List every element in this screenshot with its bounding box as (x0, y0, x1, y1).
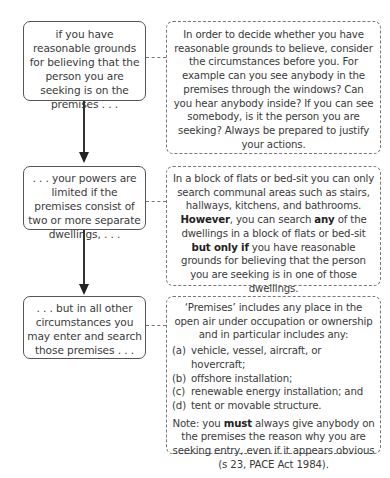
connector-dash-1 (146, 57, 166, 58)
list-item: (b)offshore installation; (172, 372, 375, 386)
explanation-text-2b: , you can search (230, 214, 315, 225)
condition-box-3: . . . but in all other circumstances you… (23, 296, 146, 359)
list-label: (b) (172, 372, 191, 386)
connector-dash-2 (146, 201, 166, 202)
arrow-down-icon (79, 152, 89, 163)
emphasis-however: However (180, 214, 229, 225)
arrow-down-icon (79, 284, 89, 295)
premises-list: (a)vehicle, vessel, aircraft, or hovercr… (172, 344, 375, 413)
explanation-text-2a: In a block of flats or bed-sit you can o… (173, 173, 374, 211)
list-text: vehicle, vessel, aircraft, or hovercraft… (191, 344, 375, 371)
condition-text-3: . . . but in all other circumstances you… (27, 302, 142, 356)
list-label: (d) (172, 399, 191, 413)
note-prefix: Note: you (172, 418, 223, 429)
premises-definition: ‘Premises’ includes any place in the ope… (172, 301, 375, 342)
list-label: (a) (172, 344, 191, 371)
emphasis-must: must (224, 418, 252, 429)
list-item: (d)tent or movable structure. (172, 399, 375, 413)
emphasis-any: any (314, 214, 334, 225)
condition-text-1: if you have reasonable grounds for belie… (30, 28, 140, 110)
explanation-box-3: ‘Premises’ includes any place in the ope… (166, 296, 381, 454)
explanation-box-2: In a block of flats or bed-sit you can o… (166, 166, 381, 286)
list-label: (c) (172, 385, 191, 399)
emphasis-but-only-if: but only if (192, 242, 249, 253)
condition-box-1: if you have reasonable grounds for belie… (23, 21, 146, 101)
list-text: offshore installation; (191, 372, 292, 386)
flow-arrow-line-1 (83, 101, 85, 155)
connector-dash-3 (146, 325, 166, 326)
list-text: tent or movable structure. (191, 399, 321, 413)
condition-box-2: . . . your powers are limited if the pre… (23, 166, 146, 230)
list-item: (c)renewable energy installation; and (172, 385, 375, 399)
explanation-box-1: In order to decide whether you have reas… (166, 21, 381, 154)
explanation-text-1: In order to decide whether you have reas… (174, 29, 374, 150)
list-text: renewable energy installation; and (191, 385, 363, 399)
note-text: Note: you must always give anybody on th… (172, 417, 375, 472)
list-item: (a)vehicle, vessel, aircraft, or hovercr… (172, 344, 375, 371)
flow-arrow-line-2 (83, 230, 85, 287)
